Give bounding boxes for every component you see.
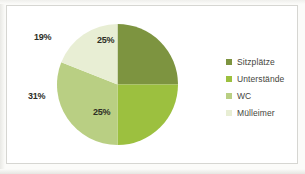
legend-label-sitzplaetze: Sitzplätze (237, 57, 275, 67)
pie-chart (57, 24, 178, 145)
legend-item-muelleimer[interactable]: Mülleimer (226, 105, 298, 121)
legend-swatch-muelleimer (226, 110, 232, 116)
chart-plot-area: 25% 25% 31% 19% Sitzplätze Unterstände W… (7, 6, 299, 165)
legend-swatch-unterstaende (226, 76, 232, 82)
pie-label-wc: 31% (28, 91, 45, 101)
legend-label-unterstaende: Unterstände (237, 74, 284, 84)
pie-slices (57, 24, 178, 145)
scan-edge-shadow-top (0, 0, 305, 4)
pie-slice-sitzplaetze[interactable] (118, 24, 179, 85)
scan-edge-shadow-bottom (0, 169, 305, 174)
legend-swatch-wc (226, 93, 232, 99)
legend-item-unterstaende[interactable]: Unterstände (226, 71, 298, 87)
legend-item-wc[interactable]: WC (226, 88, 298, 104)
chart-card: 25% 25% 31% 19% Sitzplätze Unterstände W… (6, 5, 298, 164)
legend-swatch-sitzplaetze (226, 59, 232, 65)
legend-item-sitzplaetze[interactable]: Sitzplätze (226, 54, 298, 70)
pie-label-muelleimer: 19% (34, 32, 51, 42)
chart-legend: Sitzplätze Unterstände WC Mülleimer (226, 54, 298, 122)
pie-label-sitzplaetze: 25% (97, 35, 114, 45)
pie-slice-unterstaende[interactable] (118, 85, 179, 146)
legend-label-wc: WC (237, 91, 251, 101)
legend-label-muelleimer: Mülleimer (237, 108, 275, 118)
scan-edge-shadow-left (0, 0, 5, 174)
pie-label-unterstaende: 25% (93, 107, 110, 117)
scanned-page-background: 25% 25% 31% 19% Sitzplätze Unterstände W… (0, 0, 305, 174)
